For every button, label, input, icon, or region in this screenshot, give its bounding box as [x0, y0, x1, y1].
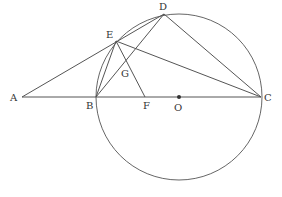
label-d: D: [159, 1, 167, 12]
segment-ad: [22, 14, 164, 97]
center-dot-o: [177, 95, 181, 99]
segment-be: [96, 41, 116, 97]
segment-dc: [164, 14, 261, 97]
label-o: O: [174, 102, 182, 113]
label-e: E: [106, 29, 113, 40]
label-g: G: [121, 68, 129, 79]
label-a: A: [9, 92, 18, 103]
label-f: F: [143, 100, 150, 111]
geometry-diagram: A B C D E F G O: [0, 0, 282, 197]
label-c: C: [264, 92, 272, 103]
segment-ec: [116, 41, 261, 97]
label-b: B: [86, 100, 93, 111]
